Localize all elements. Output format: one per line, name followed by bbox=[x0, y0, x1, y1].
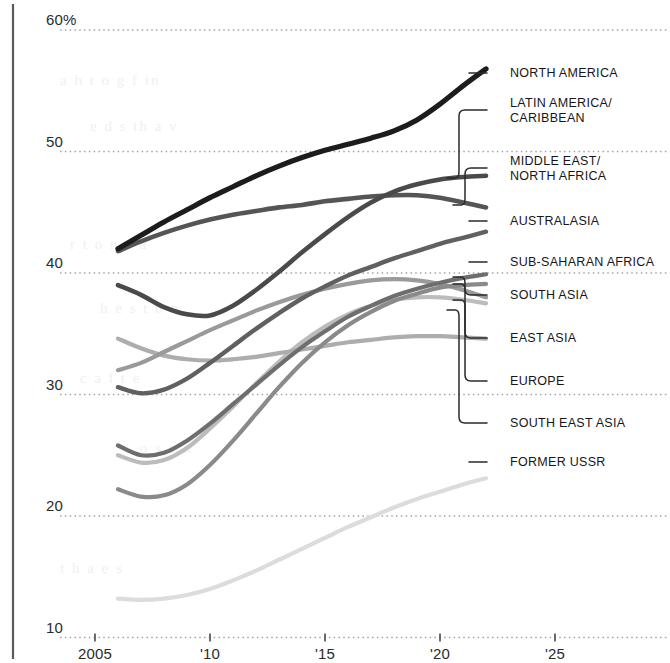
x-axis-label: '25 bbox=[515, 645, 595, 662]
series-line bbox=[118, 284, 486, 497]
series-line bbox=[118, 478, 486, 600]
legend-item-europe[interactable]: EUROPE bbox=[510, 374, 565, 389]
x-axis-label: '15 bbox=[285, 645, 365, 662]
x-axis-label: '20 bbox=[400, 645, 480, 662]
y-axis-label: 40 bbox=[46, 254, 63, 271]
series-lines bbox=[118, 69, 486, 600]
y-axis-label: 20 bbox=[46, 497, 63, 514]
y-axis-label: 10 bbox=[46, 619, 63, 636]
series-line bbox=[118, 195, 486, 251]
legend-item-australasia[interactable]: AUSTRALASIA bbox=[510, 214, 599, 229]
y-axis-label: 60% bbox=[46, 11, 77, 28]
legend-item-latin-america-caribbean[interactable]: LATIN AMERICA/ CARIBBEAN bbox=[510, 96, 612, 125]
x-axis-label: 2005 bbox=[55, 645, 135, 662]
x-axis-label: '10 bbox=[170, 645, 250, 662]
legend-leader-lines bbox=[447, 73, 487, 462]
legend-item-former-ussr[interactable]: FORMER USSR bbox=[510, 455, 606, 470]
series-line bbox=[118, 69, 486, 249]
legend-item-south-asia[interactable]: SOUTH ASIA bbox=[510, 288, 588, 303]
legend-item-middle-east-north-africa[interactable]: MIDDLE EAST/ NORTH AFRICA bbox=[510, 154, 606, 183]
y-axis-label: 50 bbox=[46, 133, 63, 150]
legend-item-south-east-asia[interactable]: SOUTH EAST ASIA bbox=[510, 416, 625, 431]
urbanization-line-chart: a h t o g f in e d s th a v r t o n e a … bbox=[0, 0, 670, 663]
legend-leader-line bbox=[447, 310, 487, 423]
x-axis-ticks bbox=[95, 634, 555, 642]
series-line bbox=[118, 297, 486, 463]
legend-item-north-america[interactable]: NORTH AMERICA bbox=[510, 66, 618, 81]
legend-item-east-asia[interactable]: EAST ASIA bbox=[510, 331, 576, 346]
legend-item-sub-saharan-africa[interactable]: SUB-SAHARAN AFRICA bbox=[510, 255, 654, 270]
y-axis-label: 30 bbox=[46, 376, 63, 393]
